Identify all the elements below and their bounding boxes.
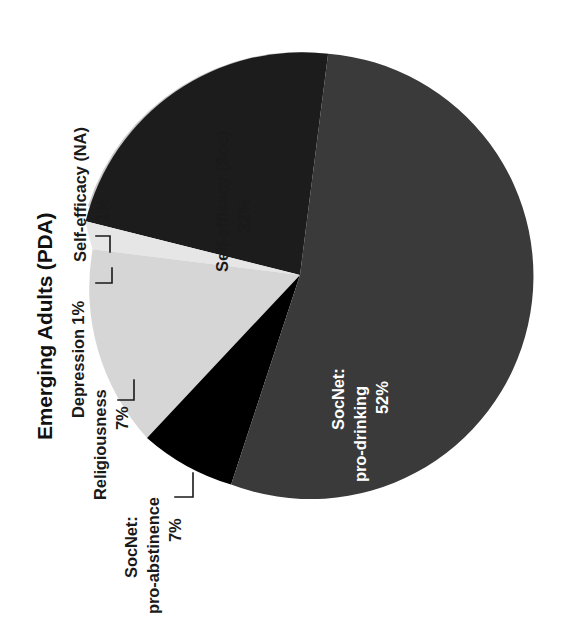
slice-label-socnet-pro-drinking-name2: pro-drinking: [352, 386, 369, 482]
slice-label-socnet-pro-abstinence-name1: SocNet:: [123, 516, 140, 578]
slice-label-self-efficacy-na-name: Self-efficacy (NA): [72, 127, 89, 262]
pie-slice-socnet-pro-abstinence[interactable]: [147, 275, 300, 485]
leader-line-religiousness: [118, 380, 134, 400]
slice-label-socnet-pro-abstinence-percent: 7%: [167, 518, 184, 542]
pie-slice-socnet-pro-drinking[interactable]: [231, 54, 533, 499]
slice-label-depression: Depression 1%: [70, 301, 87, 418]
chart-title: Emerging Adults (PDA): [34, 213, 56, 440]
slice-label-socnet-pro-abstinence-name2: pro-abstinence: [145, 497, 162, 614]
pie-slice-self-efficacy-soc[interactable]: [88, 52, 328, 275]
leader-lines: [96, 236, 193, 497]
leader-line-socnet-pro-abstinence: [175, 473, 193, 497]
pie-slices: [86, 52, 534, 499]
slice-label-self-efficacy-na-percent: 1%: [94, 198, 111, 222]
slice-label-self-efficacy-soc-name: Self-efficacy (Soc): [214, 131, 231, 272]
leader-line-depression: [96, 268, 112, 283]
slice-label-socnet-pro-drinking-name1: SocNet:: [330, 368, 347, 430]
slice-label-religiousness-percent: 7%: [114, 406, 131, 430]
slice-label-religiousness-name: Religiousness: [92, 389, 109, 500]
slice-label-self-efficacy-soc-percent: 32%: [236, 199, 253, 232]
pie-chart-figure: Emerging Adults (PDA) Self-efficacy (NA)…: [0, 0, 569, 621]
pie-slice-self-efficacy-na[interactable]: [86, 52, 329, 275]
slice-label-socnet-pro-drinking-percent: 52%: [374, 381, 391, 414]
leader-line-self-efficacy-na: [96, 236, 110, 252]
pie-slice-depression[interactable]: [86, 221, 300, 275]
